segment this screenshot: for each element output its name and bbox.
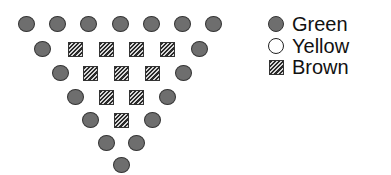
brown-square-icon	[68, 42, 83, 57]
green-circle-icon	[128, 135, 145, 151]
green-circle-icon	[143, 16, 160, 32]
green-circle-icon	[175, 65, 192, 81]
green-circle-icon	[18, 16, 35, 32]
legend-label: Brown	[292, 56, 349, 78]
legend-item-yellow: Yellow	[268, 35, 349, 57]
brown-square-icon	[99, 90, 114, 105]
green-circle-icon	[34, 41, 51, 57]
green-circle-icon	[159, 89, 176, 105]
brown-square-icon	[129, 42, 144, 57]
legend-item-brown: Brown	[268, 56, 349, 78]
green-circle-icon	[191, 41, 208, 57]
legend-label: Yellow	[292, 35, 349, 57]
green-circle-icon	[174, 16, 191, 32]
green-circle-icon	[144, 112, 161, 128]
brown-square-icon	[145, 66, 160, 81]
brown-square-icon	[114, 113, 129, 128]
green-circle-icon	[98, 135, 115, 151]
brown-square-icon	[83, 66, 98, 81]
green-circle-icon	[205, 16, 222, 32]
brown-square-icon	[114, 66, 129, 81]
brown-square-icon	[99, 42, 114, 57]
brown-square-icon	[269, 60, 284, 75]
legend-label: Green	[292, 13, 348, 35]
yellow-circle-icon	[268, 38, 284, 54]
green-circle-icon	[80, 16, 97, 32]
green-circle-icon	[82, 112, 99, 128]
brown-square-icon	[160, 42, 175, 57]
green-circle-icon	[49, 16, 66, 32]
green-circle-icon	[268, 16, 284, 32]
green-circle-icon	[67, 89, 84, 105]
green-circle-icon	[112, 16, 129, 32]
green-circle-icon	[113, 157, 130, 173]
brown-square-icon	[129, 90, 144, 105]
green-circle-icon	[52, 65, 69, 81]
legend-item-green: Green	[268, 13, 348, 35]
